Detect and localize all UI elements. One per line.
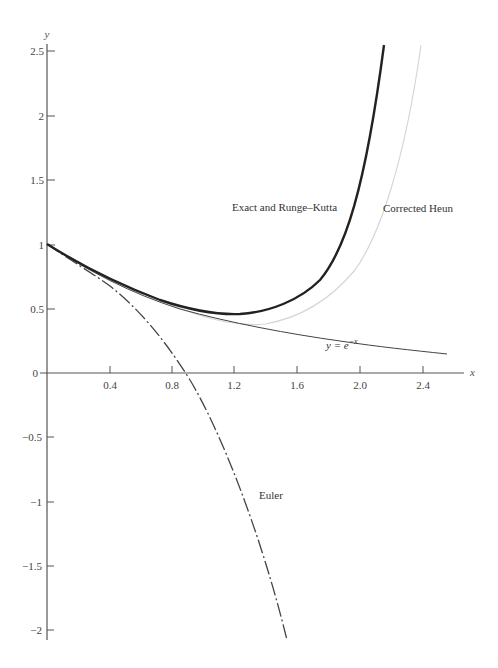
y-ticks [47,51,55,630]
label-exp-base: y = e [325,339,349,351]
label-exp-superscript: −x [349,337,358,346]
y-tick-label: −0.5 [22,431,42,443]
y-tick-label: 2.5 [30,45,44,57]
label-exp-neg-x: y = e−x [325,337,358,351]
x-axis-label: x [469,366,475,378]
label-exact-runge-kutta: Exact and Runge–Kutta [232,201,337,213]
y-tick-label: 0.5 [30,303,44,315]
y-axis-label: y [44,28,50,40]
y-tick-label: 0 [33,367,39,379]
x-tick-label: 2.4 [416,379,430,391]
y-tick-label: 1.5 [30,174,44,186]
x-tick-label: 0.8 [165,379,179,391]
x-tick-label: 0.4 [103,379,117,391]
y-tick-label: 1 [39,239,45,251]
x-tick-label: 1.6 [290,379,304,391]
y-tick-label: 2 [39,110,45,122]
curve-corrected-heun [47,45,421,325]
chart-canvas: y x 2.5 2 1.5 1 0.5 0 −0.5 −1 −1.5 −2 0.… [0,0,498,668]
label-corrected-heun: Corrected Heun [383,202,453,214]
label-euler: Euler [259,489,283,501]
x-tick-label: 1.2 [227,379,241,391]
y-tick-label: −2 [30,624,42,636]
curve-exp-neg-x [47,244,447,354]
x-tick-labels: 0.4 0.8 1.2 1.6 2.0 2.4 [103,379,430,391]
y-tick-label: −1.5 [22,560,42,572]
y-tick-label: −1 [30,496,42,508]
curve-exact-runge-kutta [47,45,384,314]
x-ticks [110,366,423,373]
x-tick-label: 2.0 [353,379,367,391]
y-tick-labels: 2.5 2 1.5 1 0.5 0 −0.5 −1 −1.5 −2 [22,45,44,636]
